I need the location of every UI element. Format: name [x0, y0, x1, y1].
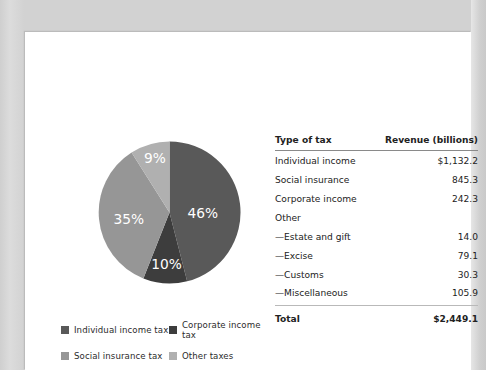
legend-label: Corporate income tax	[182, 320, 276, 340]
pie-label-other-taxes: 9%	[144, 150, 166, 166]
row-label: —Estate and gift	[275, 232, 351, 242]
table-row-other-group: Other	[275, 208, 478, 227]
chart-legend: Individual income tax Corporate income t…	[61, 320, 276, 361]
table-row: Individual income $1,132.2	[275, 151, 478, 170]
row-value: 242.3	[452, 194, 478, 204]
legend-label: Other taxes	[182, 351, 233, 361]
revenue-table: Type of tax Revenue (billions) Individua…	[275, 135, 478, 328]
legend-swatch-icon	[61, 326, 69, 334]
row-value: 14.0	[458, 232, 478, 242]
pie-label-corporate-income-tax: 10%	[151, 256, 182, 272]
legend-swatch-icon	[169, 352, 177, 360]
table-row: Social insurance 845.3	[275, 170, 478, 189]
row-value: 105.9	[452, 288, 478, 298]
row-label: Social insurance	[275, 175, 349, 185]
row-label: —Customs	[275, 270, 324, 280]
row-value: 30.3	[458, 270, 478, 280]
row-label: Individual income	[275, 156, 356, 166]
column-header-revenue: Revenue (billions)	[385, 135, 478, 145]
row-label: —Excise	[275, 251, 313, 261]
legend-item-social-insurance-tax: Social insurance tax	[61, 351, 169, 361]
legend-item-corporate-income-tax: Corporate income tax	[169, 320, 276, 340]
row-value: 79.1	[458, 251, 478, 261]
legend-item-other-taxes: Other taxes	[169, 351, 276, 361]
table-total-row: Total $2,449.1	[275, 306, 478, 328]
pie-label-individual-income-tax: 46%	[188, 205, 219, 221]
pie-label-social-insurance-tax: 35%	[114, 211, 145, 227]
table-header-row: Type of tax Revenue (billions)	[275, 135, 478, 150]
row-value: $1,132.2	[438, 156, 479, 166]
pie-chart-svg: 46% 10% 35% 9%	[97, 140, 242, 285]
row-label: Corporate income	[275, 194, 357, 204]
legend-swatch-icon	[169, 326, 177, 334]
table-row: —Excise 79.1	[275, 246, 478, 265]
total-label: Total	[275, 314, 300, 324]
screenshot-root: 46% 10% 35% 9% Individual income tax Cor…	[0, 0, 486, 370]
legend-item-individual-income-tax: Individual income tax	[61, 320, 169, 340]
pie-chart: 46% 10% 35% 9%	[97, 140, 242, 285]
legend-label: Individual income tax	[74, 325, 168, 335]
row-label: Other	[275, 213, 301, 223]
table-row: —Estate and gift 14.0	[275, 227, 478, 246]
row-label: —Miscellaneous	[275, 288, 348, 298]
table-row: Corporate income 242.3	[275, 189, 478, 208]
legend-swatch-icon	[61, 352, 69, 360]
legend-label: Social insurance tax	[74, 351, 162, 361]
total-value: $2,449.1	[433, 314, 478, 324]
row-value: 845.3	[452, 175, 478, 185]
table-row: —Miscellaneous 105.9	[275, 284, 478, 303]
document-page: 46% 10% 35% 9% Individual income tax Cor…	[25, 32, 471, 370]
column-header-type-of-tax: Type of tax	[275, 135, 332, 145]
table-row: —Customs 30.3	[275, 265, 478, 284]
